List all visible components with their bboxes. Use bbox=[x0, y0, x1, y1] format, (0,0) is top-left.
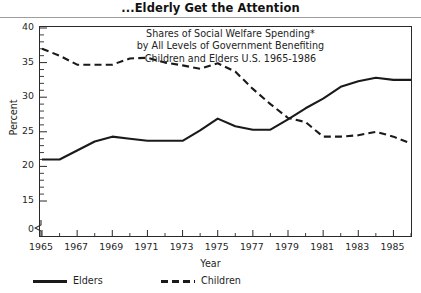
legend-swatch-solid-icon bbox=[33, 280, 67, 283]
caption-line-1: Shares of Social Welfare Spending* bbox=[108, 28, 353, 40]
x-tick-label: 1975 bbox=[197, 241, 237, 252]
legend-label: Elders bbox=[73, 275, 103, 286]
series-line-elders bbox=[42, 78, 411, 160]
x-tick-label: 1967 bbox=[56, 241, 96, 252]
x-tick-label: 1977 bbox=[232, 241, 272, 252]
x-tick-label: 1979 bbox=[267, 241, 307, 252]
y-tick-label: 0 bbox=[8, 223, 34, 234]
y-tick-label: 30 bbox=[8, 90, 34, 101]
x-tick-label: 1965 bbox=[21, 241, 61, 252]
chart-caption: Shares of Social Welfare Spending* by Al… bbox=[108, 28, 353, 65]
y-tick-label: 35 bbox=[8, 56, 34, 67]
x-tick-label: 1985 bbox=[372, 241, 412, 252]
x-tick-label: 1971 bbox=[126, 241, 166, 252]
caption-line-3: Children and Elders U.S. 1965-1986 bbox=[108, 53, 353, 65]
page-title: ...Elderly Get the Attention bbox=[0, 1, 421, 15]
x-tick-label: 1969 bbox=[91, 241, 131, 252]
x-tick-label: 1981 bbox=[302, 241, 342, 252]
y-tick-label: 40 bbox=[8, 21, 34, 32]
caption-line-2: by All Levels of Government Benefiting bbox=[108, 40, 353, 52]
x-tick-label: 1973 bbox=[162, 241, 202, 252]
header-divider bbox=[0, 17, 421, 18]
chart-page: ...Elderly Get the Attention Shares of S… bbox=[0, 0, 421, 293]
y-axis-break-icon bbox=[34, 220, 46, 236]
x-tick-label: 1983 bbox=[337, 241, 377, 252]
x-axis-title: Year bbox=[0, 258, 421, 269]
y-tick-label: 25 bbox=[8, 125, 34, 136]
y-tick-label: 20 bbox=[8, 159, 34, 170]
legend-label: Children bbox=[201, 275, 241, 286]
chart-header: ...Elderly Get the Attention bbox=[0, 0, 421, 20]
y-tick-label: 15 bbox=[8, 194, 34, 205]
legend-swatch-dashed-icon bbox=[161, 280, 195, 283]
